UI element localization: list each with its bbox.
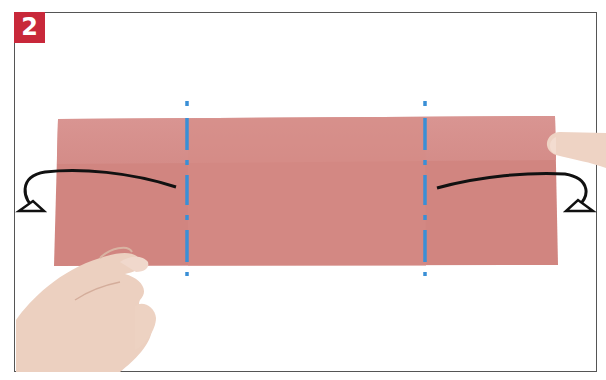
origami-illustration	[0, 0, 606, 380]
paper-strip	[54, 116, 558, 266]
left-hand	[16, 248, 156, 372]
